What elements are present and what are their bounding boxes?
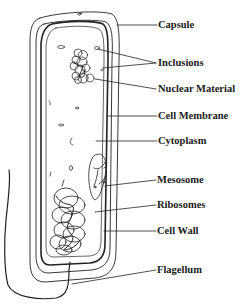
label-capsule: Capsule bbox=[158, 19, 194, 31]
mesosome bbox=[89, 154, 107, 200]
label-cell-membrane: Cell Membrane bbox=[158, 110, 228, 122]
nuclear-material-bottom bbox=[50, 180, 85, 255]
cell-illustration bbox=[0, 0, 242, 306]
inclusions bbox=[49, 46, 103, 177]
label-nuclear-material: Nuclear Material bbox=[158, 83, 235, 95]
label-mesosome: Mesosome bbox=[157, 174, 204, 186]
label-flagellum: Flagellum bbox=[157, 264, 202, 276]
bacterial-cell-diagram: Capsule Inclusions Nuclear Material Cell… bbox=[0, 0, 242, 306]
label-inclusions: Inclusions bbox=[158, 57, 204, 69]
label-cell-wall: Cell Wall bbox=[157, 225, 199, 237]
cytoplasm-boundary bbox=[46, 26, 104, 257]
label-cytoplasm: Cytoplasm bbox=[158, 135, 206, 147]
nuclear-material-top bbox=[70, 49, 94, 84]
cell-membrane-outline bbox=[41, 21, 108, 265]
label-ribosomes: Ribosomes bbox=[157, 199, 205, 211]
